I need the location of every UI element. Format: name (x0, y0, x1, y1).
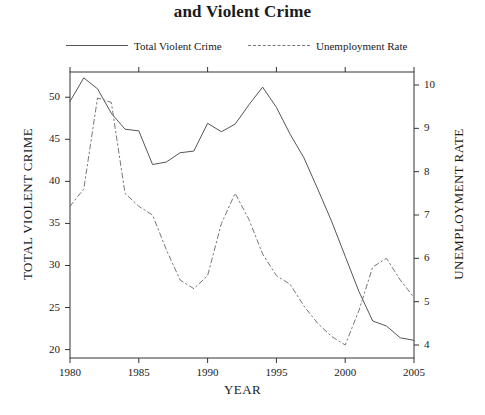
x-axis-tick-label: 2000 (325, 366, 365, 378)
x-axis-tick-label: 1985 (119, 366, 159, 378)
y-axis-left-tick-label: 50 (34, 90, 60, 102)
y-axis-right-tick-label: 5 (424, 295, 450, 307)
plot-area (0, 0, 485, 415)
chart-figure: and Violent Crime Total Violent Crime Un… (0, 0, 485, 415)
y-axis-left-tick-label: 25 (34, 301, 60, 313)
y-axis-right-tick-label: 7 (424, 208, 450, 220)
y-axis-left-tick-label: 30 (34, 258, 60, 270)
x-axis-tick-label: 2005 (394, 366, 434, 378)
y-axis-left-tick-label: 45 (34, 132, 60, 144)
y-axis-left-tick-label: 35 (34, 216, 60, 228)
y-axis-right-tick-label: 4 (424, 338, 450, 350)
x-axis-tick-label: 1995 (256, 366, 296, 378)
y-axis-left-tick-label: 40 (34, 174, 60, 186)
y-axis-right-tick-label: 9 (424, 121, 450, 133)
y-axis-right-tick-label: 8 (424, 165, 450, 177)
x-axis-tick-label: 1990 (188, 366, 228, 378)
series-line-unemployment-rate (70, 98, 414, 345)
y-axis-right-tick-label: 10 (424, 78, 450, 90)
y-axis-right-tick-label: 6 (424, 251, 450, 263)
y-axis-left-tick-label: 20 (34, 343, 60, 355)
x-axis-tick-label: 1980 (50, 366, 90, 378)
